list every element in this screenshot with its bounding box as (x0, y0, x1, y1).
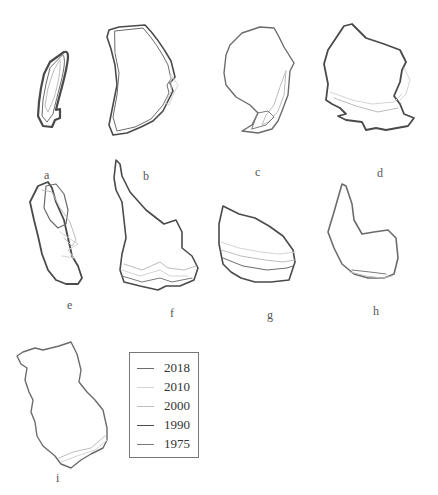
legend-swatch-1990 (137, 425, 154, 426)
panel-g: g (217, 200, 302, 300)
legend-entry-2018: 2018 (130, 359, 198, 377)
panel-a: a (30, 40, 80, 140)
panel-d: d (322, 20, 422, 140)
lake-outline-b (105, 25, 185, 150)
legend-entry-2010: 2010 (130, 378, 198, 396)
lake-outline-d (322, 20, 422, 140)
lake-outline-i (15, 340, 115, 490)
lake-outline-e (26, 180, 91, 300)
panel-label-g: g (267, 308, 273, 323)
panel-i: i (15, 340, 115, 490)
lake-outline-h (326, 182, 406, 292)
panel-b: b (105, 25, 185, 150)
legend-entry-1990: 1990 (130, 416, 198, 434)
legend-label-2010: 2010 (164, 378, 190, 396)
legend-swatch-1975 (137, 444, 154, 445)
lake-outline-a (30, 40, 80, 140)
panel-c: c (222, 25, 302, 145)
lake-outline-g (217, 200, 302, 300)
panel-label-d: d (377, 166, 383, 181)
legend-swatch-2010 (137, 387, 154, 388)
legend-entry-2000: 2000 (130, 397, 198, 415)
legend-label-1990: 1990 (164, 416, 190, 434)
panel-label-f: f (170, 306, 174, 321)
panel-label-h: h (373, 304, 379, 319)
panel-label-e: e (67, 298, 72, 313)
legend-swatch-2018 (137, 368, 154, 369)
legend: 2018 2010 2000 1990 1975 (129, 352, 199, 458)
panel-e: e (26, 180, 91, 300)
legend-swatch-2000 (137, 406, 154, 407)
panel-label-i: i (56, 471, 59, 486)
lake-outline-f (112, 158, 207, 298)
panel-f: f (112, 158, 207, 298)
lake-outline-c (222, 25, 302, 145)
legend-label-1975: 1975 (164, 435, 190, 453)
legend-label-2018: 2018 (164, 359, 190, 377)
legend-entry-1975: 1975 (130, 435, 198, 453)
panel-h: h (326, 182, 406, 292)
legend-label-2000: 2000 (164, 397, 190, 415)
panel-label-c: c (255, 165, 260, 180)
